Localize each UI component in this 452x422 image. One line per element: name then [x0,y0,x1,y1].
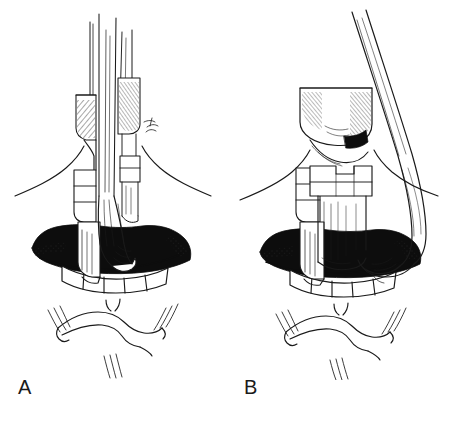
panel-b: B [226,0,452,422]
panel-b-label: B [244,377,257,397]
midline-notch-a [106,299,120,311]
lower-lip-chin-a [57,312,166,356]
panel-a-label: A [18,377,31,397]
figure-container: A [0,0,452,422]
oral-cavity-shadow-a [32,225,191,274]
panel-a: A [0,0,226,422]
lower-lip-chin-b [285,316,394,360]
oral-cavity-shadow-b [260,229,421,278]
instrument-blade-a [74,22,100,283]
instrument-tube-a [118,30,158,222]
panel-b-illustration [226,0,452,380]
midline-notch-b [334,303,348,315]
face-outline-a [15,146,211,196]
panel-a-illustration [0,0,226,380]
